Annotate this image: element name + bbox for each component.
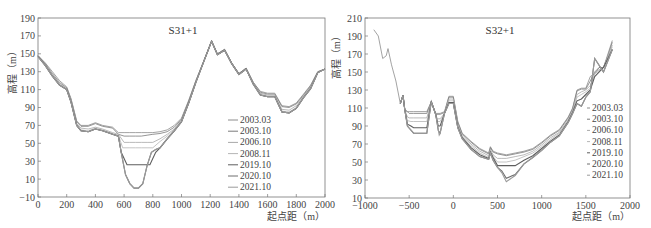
series-lines [38, 40, 325, 188]
x-tick-label: 2000 [620, 200, 640, 211]
legend: 2003.032003.102006.102008.112019.102020.… [228, 115, 271, 192]
y-tick-label: 30 [25, 156, 35, 167]
legend-item: 2003.10 [592, 114, 623, 124]
y-tick-label: 70 [25, 120, 35, 131]
y-axis-label: 高程（m） [6, 46, 18, 94]
x-tick-label: 2000 [315, 199, 335, 210]
legend-item: 2008.11 [592, 137, 623, 147]
y-tick-label: 190 [347, 31, 362, 42]
x-ticks: 0200400600800100012001400160018002000 [36, 194, 336, 210]
y-tick-label: 50 [352, 157, 362, 168]
legend-item: 2021.10 [240, 182, 271, 192]
legend-item: 2019.10 [240, 160, 271, 170]
series-line-2008.11 [38, 41, 325, 148]
y-tick-label: 110 [20, 84, 35, 95]
x-tick-label: 1200 [200, 199, 220, 210]
x-axis-label: 起点距（m） [572, 211, 630, 222]
x-tick-label: 1500 [576, 200, 596, 211]
x-tick-label: 1000 [172, 199, 192, 210]
series-line-2021.10 [38, 41, 325, 188]
x-tick-label: 1400 [229, 199, 249, 210]
legend: 2003.032003.102006.102008.112019.102020.… [587, 103, 623, 180]
x-tick-label: 1000 [532, 200, 552, 211]
series-line-2019.10 [38, 41, 325, 165]
chart-s31-1: S31+1 −101030507090110130150170190 02004… [6, 13, 335, 223]
x-axis-label: 起点距（m） [267, 211, 325, 222]
x-ticks: −1000−5000500100015002000 [352, 195, 640, 211]
x-tick-label: 800 [145, 199, 160, 210]
y-tick-label: 30 [352, 175, 362, 186]
chart-s32-1: S32+1 1030507090110130150170190210 −1000… [330, 13, 640, 223]
legend-item: 2006.10 [592, 125, 623, 135]
legend-item: 2003.03 [240, 115, 271, 125]
y-tick-label: 70 [352, 139, 362, 150]
y-tick-label: 90 [25, 102, 35, 113]
x-tick-label: 400 [88, 199, 103, 210]
x-tick-label: −500 [399, 200, 420, 211]
series-lines [374, 30, 613, 182]
legend-item: 2021.10 [592, 170, 623, 180]
y-tick-label: 210 [347, 13, 362, 24]
series-line-2006.10 [38, 41, 325, 142]
y-tick-label: 150 [347, 67, 362, 78]
series-line-2006.10 [400, 45, 612, 158]
legend-item: 2019.10 [592, 148, 623, 158]
x-tick-label: 200 [59, 199, 74, 210]
y-tick-label: 10 [25, 174, 35, 185]
legend-item: 2020.10 [240, 171, 271, 181]
y-tick-label: 110 [347, 103, 362, 114]
x-tick-label: 500 [490, 200, 505, 211]
y-tick-label: 170 [20, 30, 35, 41]
y-tick-label: 50 [25, 138, 35, 149]
x-tick-label: −1000 [352, 200, 378, 211]
x-tick-label: 1600 [258, 199, 278, 210]
x-tick-label: 0 [36, 199, 41, 210]
x-tick-label: 600 [117, 199, 132, 210]
chart-title: S32+1 [486, 24, 515, 36]
y-tick-label: 170 [347, 49, 362, 60]
legend-item: 2003.10 [240, 126, 271, 136]
x-tick-label: 1800 [286, 199, 306, 210]
y-tick-label: 130 [347, 85, 362, 96]
legend-item: 2003.03 [592, 103, 623, 113]
series-line-2020.10 [400, 50, 612, 179]
chart-title: S31+1 [169, 24, 198, 36]
y-tick-label: 190 [20, 13, 35, 24]
plot-area-frame [38, 18, 325, 197]
y-tick-label: 90 [352, 121, 362, 132]
legend-item: 2020.10 [592, 159, 623, 169]
figure: S31+1 −101030507090110130150170190 02004… [0, 0, 651, 228]
series-line-2019.10 [400, 50, 612, 166]
series-line-2020.10 [38, 41, 325, 188]
y-axis-label: 高程（m） [330, 31, 342, 79]
y-tick-label: 150 [20, 48, 35, 59]
legend-item: 2006.10 [240, 137, 271, 147]
y-tick-label: 130 [20, 66, 35, 77]
y-tick-label: −10 [19, 192, 35, 203]
x-tick-label: 0 [451, 200, 456, 211]
legend-item: 2008.11 [240, 149, 271, 159]
